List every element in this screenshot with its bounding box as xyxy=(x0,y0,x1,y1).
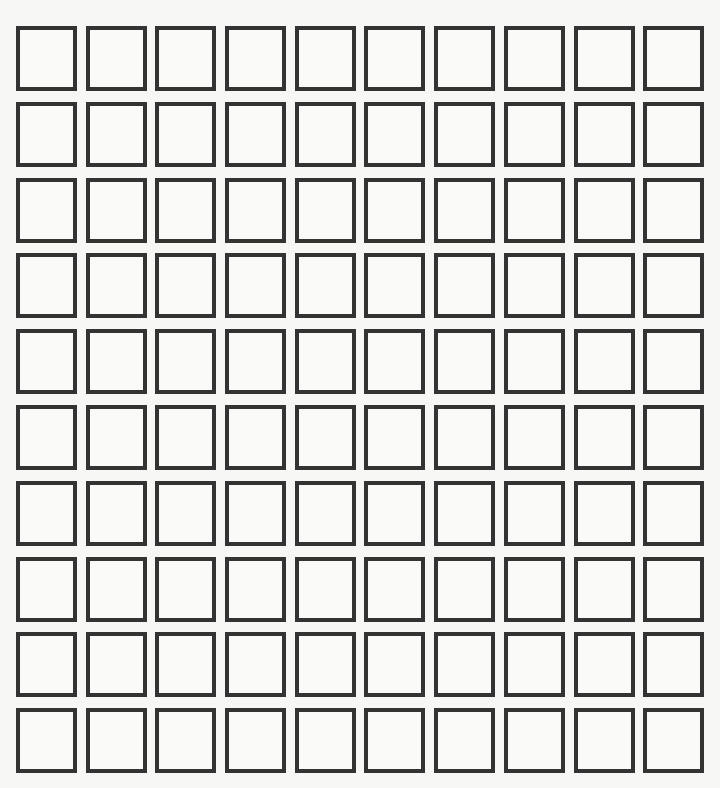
grid-box xyxy=(295,632,356,697)
grid-box xyxy=(16,329,77,394)
grid-box xyxy=(86,632,147,697)
grid-box xyxy=(434,481,495,546)
grid-box xyxy=(504,405,565,470)
grid-box xyxy=(574,632,635,697)
grid-box xyxy=(16,708,77,773)
grid-box xyxy=(504,178,565,243)
grid-box xyxy=(574,481,635,546)
grid-box xyxy=(364,102,425,167)
grid-box xyxy=(434,178,495,243)
grid-box xyxy=(86,178,147,243)
grid-box xyxy=(225,632,286,697)
empty-box-grid xyxy=(16,26,704,773)
grid-box xyxy=(574,557,635,622)
grid-box xyxy=(434,253,495,318)
grid-box xyxy=(16,481,77,546)
grid-box xyxy=(434,557,495,622)
grid-box xyxy=(574,178,635,243)
grid-box xyxy=(295,557,356,622)
grid-box xyxy=(86,102,147,167)
grid-box xyxy=(16,102,77,167)
grid-box xyxy=(504,102,565,167)
grid-box xyxy=(364,557,425,622)
grid-box xyxy=(504,632,565,697)
grid-box xyxy=(155,26,216,91)
grid-box xyxy=(504,557,565,622)
grid-box xyxy=(504,329,565,394)
grid-box xyxy=(504,253,565,318)
grid-box xyxy=(643,557,704,622)
grid-box xyxy=(225,253,286,318)
grid-box xyxy=(155,102,216,167)
grid-box xyxy=(364,26,425,91)
grid-box xyxy=(434,405,495,470)
grid-box xyxy=(364,253,425,318)
grid-box xyxy=(155,481,216,546)
grid-box xyxy=(155,405,216,470)
grid-box xyxy=(364,632,425,697)
grid-box xyxy=(295,405,356,470)
worksheet-page xyxy=(0,0,720,788)
grid-box xyxy=(86,405,147,470)
grid-box xyxy=(643,329,704,394)
grid-box xyxy=(225,708,286,773)
grid-box xyxy=(364,329,425,394)
grid-box xyxy=(364,405,425,470)
grid-box xyxy=(504,26,565,91)
grid-box xyxy=(86,557,147,622)
grid-box xyxy=(86,26,147,91)
grid-box xyxy=(295,102,356,167)
grid-box xyxy=(434,26,495,91)
grid-box xyxy=(643,102,704,167)
grid-box xyxy=(504,481,565,546)
grid-box xyxy=(16,178,77,243)
grid-box xyxy=(225,26,286,91)
grid-box xyxy=(295,26,356,91)
grid-box xyxy=(86,481,147,546)
grid-box xyxy=(574,708,635,773)
grid-box xyxy=(155,253,216,318)
grid-box xyxy=(16,557,77,622)
grid-box xyxy=(434,102,495,167)
grid-box xyxy=(504,708,565,773)
grid-box xyxy=(643,632,704,697)
grid-box xyxy=(155,632,216,697)
grid-box xyxy=(434,708,495,773)
grid-box xyxy=(574,102,635,167)
grid-box xyxy=(86,329,147,394)
grid-box xyxy=(643,26,704,91)
grid-box xyxy=(225,102,286,167)
grid-box xyxy=(574,329,635,394)
grid-box xyxy=(574,405,635,470)
grid-box xyxy=(643,253,704,318)
grid-box xyxy=(295,329,356,394)
grid-box xyxy=(155,329,216,394)
grid-box xyxy=(155,557,216,622)
grid-box xyxy=(364,178,425,243)
grid-box xyxy=(155,708,216,773)
grid-box xyxy=(16,253,77,318)
grid-box xyxy=(643,481,704,546)
grid-box xyxy=(574,253,635,318)
grid-box xyxy=(225,405,286,470)
grid-box xyxy=(434,329,495,394)
grid-box xyxy=(295,178,356,243)
grid-box xyxy=(295,253,356,318)
grid-box xyxy=(86,253,147,318)
grid-box xyxy=(225,481,286,546)
grid-box xyxy=(225,329,286,394)
grid-box xyxy=(643,405,704,470)
grid-box xyxy=(16,405,77,470)
grid-box xyxy=(86,708,147,773)
grid-box xyxy=(643,708,704,773)
grid-box xyxy=(643,178,704,243)
grid-box xyxy=(16,26,77,91)
grid-box xyxy=(364,708,425,773)
grid-box xyxy=(225,557,286,622)
grid-box xyxy=(574,26,635,91)
grid-box xyxy=(295,708,356,773)
grid-box xyxy=(434,632,495,697)
grid-box xyxy=(225,178,286,243)
grid-box xyxy=(155,178,216,243)
grid-box xyxy=(364,481,425,546)
